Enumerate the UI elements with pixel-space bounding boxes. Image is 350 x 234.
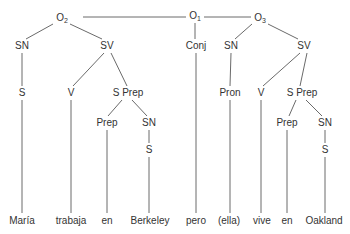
node-o1: O1 (189, 11, 201, 22)
node-sn-left: SN (15, 41, 29, 51)
node-sv-right: SV (297, 41, 310, 51)
tree-edge (300, 53, 307, 86)
node-pron: Pron (219, 88, 240, 98)
word-oakland: Oakland (305, 216, 342, 226)
tree-edge (70, 24, 102, 39)
syntax-tree-diagram: O1 O2 O3 SN SV Conj SN SV S V S Prep Pro… (0, 0, 350, 234)
word-pero: pero (186, 216, 206, 226)
node-v-left: V (68, 88, 75, 98)
node-prep-left: Prep (96, 118, 117, 128)
node-s-oakland: S (322, 145, 329, 155)
node-sprep-right: S Prep (287, 88, 318, 98)
node-conj: Conj (186, 41, 207, 51)
tree-edge (73, 53, 104, 86)
word-en-1: en (101, 216, 112, 226)
node-s-left: S (19, 88, 26, 98)
tree-edge (111, 53, 127, 86)
tree-edge (268, 24, 298, 39)
tree-edges (0, 0, 350, 234)
word-berkeley: Berkeley (131, 216, 170, 226)
tree-edge (263, 53, 300, 86)
tree-edge (306, 100, 322, 116)
node-o2: O2 (56, 13, 68, 24)
node-sn-berkeley: SN (142, 118, 156, 128)
tree-edge (230, 53, 231, 86)
node-sn-right: SN (224, 41, 238, 51)
tree-edge (132, 100, 147, 116)
node-v-right: V (258, 88, 265, 98)
node-sv-left: SV (100, 41, 113, 51)
word-ella: (ella) (218, 216, 240, 226)
node-sprep-left: S Prep (113, 88, 144, 98)
word-vive: vive (253, 216, 271, 226)
tree-edge (289, 100, 296, 116)
node-o3: O3 (254, 13, 266, 24)
tree-edge (26, 24, 53, 39)
node-sn-oakland: SN (318, 118, 332, 128)
tree-edge (108, 100, 122, 116)
word-trabaja: trabaja (56, 216, 87, 226)
node-prep-right: Prep (276, 118, 297, 128)
node-s-berkeley: S (146, 145, 153, 155)
tree-edge (235, 24, 252, 39)
word-en-2: en (281, 216, 292, 226)
word-maria: María (9, 216, 35, 226)
